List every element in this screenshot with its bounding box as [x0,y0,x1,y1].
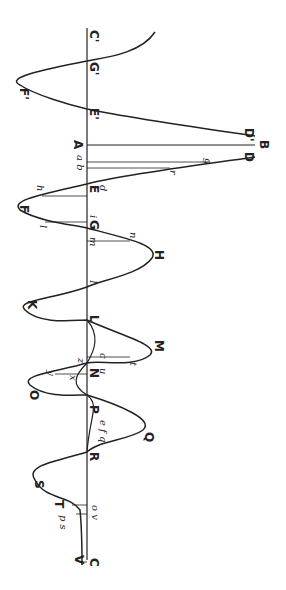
svg-text:O: O [27,390,41,400]
svg-text:C: C [87,558,101,567]
svg-text:K: K [25,300,39,310]
svg-text:P: P [87,405,101,414]
svg-text:H: H [152,250,166,260]
svg-text:d: d [98,185,109,191]
svg-text:o v: o v [90,505,101,520]
upper-curve [16,32,255,136]
svg-text:g: g [203,158,214,164]
inner-curve [76,320,95,452]
svg-text:F: F [17,205,31,213]
svg-text:V: V [72,555,86,565]
svg-text:h: h [35,185,46,191]
svg-text:G': G' [87,62,101,76]
svg-text:F': F' [17,88,31,100]
svg-text:e f q: e f q [98,420,109,442]
svg-text:M: M [152,340,166,352]
svg-text:a b: a b [75,155,86,171]
svg-text:i: i [88,215,99,218]
svg-text:m: m [88,237,99,246]
svg-text:p s: p s [58,515,69,530]
labels: C' G' F' E' D' A B D a b g r E d h F i G… [17,30,271,567]
svg-text:B: B [257,140,271,149]
svg-text:D': D' [242,128,256,142]
svg-text:Q: Q [142,432,156,442]
svg-text:R: R [87,452,101,461]
wave-diagram: C' G' F' E' D' A B D a b g r E d h F i G… [0,0,286,590]
svg-text:D: D [242,152,256,162]
svg-text:u: u [98,368,109,374]
svg-text:r: r [168,170,179,176]
svg-text:G: G [87,220,101,230]
svg-text:c: c [98,353,109,359]
svg-text:T: T [52,500,66,509]
svg-text:l: l [38,225,49,228]
svg-text:L: L [87,315,101,323]
svg-text:n: n [128,232,139,238]
svg-text:A: A [71,140,85,150]
svg-text:C': C' [87,30,101,42]
svg-text:x: x [68,375,79,381]
svg-text:y: y [46,369,57,376]
svg-text:S: S [32,480,46,489]
svg-text:t: t [128,362,139,367]
svg-text:z: z [76,357,87,364]
svg-text:E': E' [87,108,101,120]
